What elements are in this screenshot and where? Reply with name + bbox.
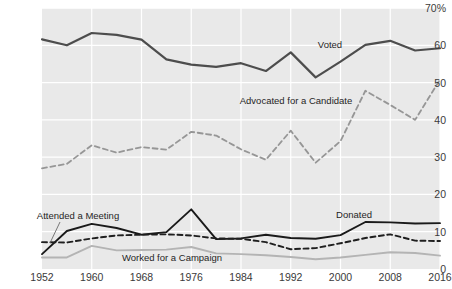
series-annotation-worked-for-a-campaign: Worked for a Campaign — [122, 253, 222, 263]
series-annotation-attended-a-meeting: Attended a Meeting — [37, 211, 119, 221]
series-annotation-donated: Donated — [336, 210, 372, 220]
series-annotation-voted: Voted — [318, 40, 342, 50]
series-annotation-advocated-for-a-candidate: Advocated for a Candidate — [240, 96, 353, 106]
